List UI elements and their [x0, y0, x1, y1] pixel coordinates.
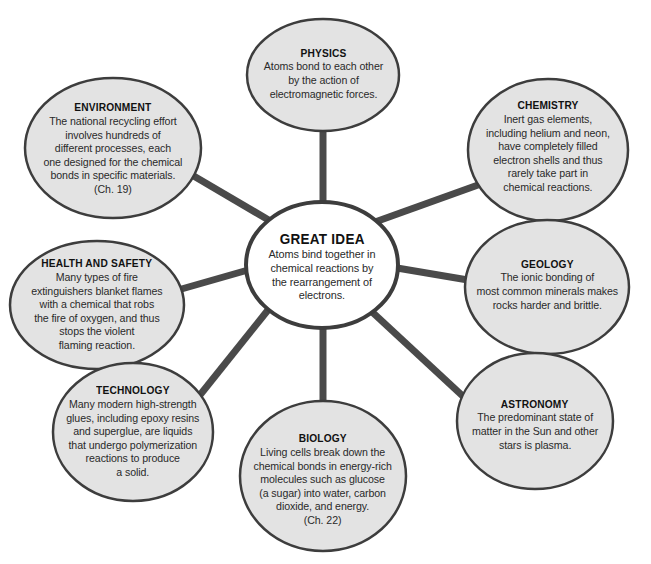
spoke-astronomy	[370, 310, 467, 400]
center-body: Atoms bind together in chemical reaction…	[269, 247, 376, 301]
node-body: Atoms bond to each other by the action o…	[263, 60, 382, 101]
node-title: HEALTH AND SAFETY	[42, 257, 153, 271]
node-title: ASTRONOMY	[501, 398, 569, 412]
node-health-and-safety: HEALTH AND SAFETY Many types of fire ext…	[15, 253, 179, 357]
node-body: The predominant state of matter in the S…	[472, 411, 598, 452]
node-environment: ENVIRONMENT The national recycling effor…	[30, 95, 196, 203]
node-title: BIOLOGY	[299, 432, 347, 446]
spoke-geology	[397, 268, 468, 280]
node-title: PHYSICS	[300, 47, 346, 61]
node-title: ENVIRONMENT	[74, 101, 151, 115]
node-body: Many modern high-strength glues, includi…	[66, 398, 199, 480]
node-title: CHEMISTRY	[517, 99, 578, 113]
concept-map: GREAT IDEA Atoms bind together in chemic…	[0, 0, 651, 564]
spoke-health-and-safety	[178, 270, 248, 290]
node-title: GEOLOGY	[521, 258, 574, 272]
node-body: Living cells break down the chemical bon…	[254, 446, 392, 528]
node-astronomy: ASTRONOMY The predominant state of matte…	[457, 395, 613, 455]
node-body: The national recycling effort involves h…	[44, 115, 183, 197]
node-body: Many types of fire extinguishers blanket…	[31, 271, 162, 353]
center-title: GREAT IDEA	[280, 230, 365, 247]
node-biology: BIOLOGY Living cells break down the chem…	[243, 428, 403, 532]
node-technology: TECHNOLOGY Many modern high-strength glu…	[55, 380, 211, 484]
node-body: The ionic bonding of most common mineral…	[476, 271, 618, 312]
center-node: GREAT IDEA Atoms bind together in chemic…	[247, 212, 397, 320]
node-geology: GEOLOGY The ionic bonding of most common…	[467, 250, 627, 320]
node-title: TECHNOLOGY	[96, 384, 170, 398]
node-physics: PHYSICS Atoms bond to each other by the …	[248, 38, 398, 110]
node-chemistry: CHEMISTRY Inert gas elements, including …	[470, 92, 626, 202]
node-body: Inert gas elements, including helium and…	[486, 113, 610, 195]
